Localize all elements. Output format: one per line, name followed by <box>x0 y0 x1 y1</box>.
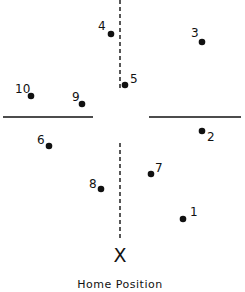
target-point-2: 2 <box>199 128 215 144</box>
home-position-marker: X <box>113 244 126 266</box>
target-point-5: 5 <box>122 72 138 88</box>
target-dot <box>148 171 155 178</box>
target-label: 3 <box>191 26 199 40</box>
target-diagram: 12345678910 X Home Position <box>0 0 245 292</box>
target-dot <box>98 186 105 193</box>
target-label: 6 <box>37 133 45 147</box>
target-point-3: 3 <box>191 26 205 45</box>
target-label: 4 <box>98 19 106 33</box>
target-label: 7 <box>155 161 163 175</box>
target-dot <box>46 143 53 150</box>
target-dot <box>180 216 187 223</box>
target-point-10: 10 <box>15 82 34 99</box>
target-point-9: 9 <box>72 90 85 107</box>
target-dot <box>79 101 86 108</box>
target-point-8: 8 <box>89 177 104 192</box>
target-point-7: 7 <box>148 161 163 177</box>
target-points: 12345678910 <box>15 19 215 222</box>
target-label: 10 <box>15 82 30 96</box>
target-label: 8 <box>89 177 97 191</box>
target-dot <box>108 31 115 38</box>
target-point-4: 4 <box>98 19 114 37</box>
target-label: 5 <box>130 72 138 86</box>
target-label: 1 <box>190 205 198 219</box>
target-label: 9 <box>72 90 80 104</box>
target-dot <box>122 82 129 89</box>
target-point-6: 6 <box>37 133 52 149</box>
target-dot <box>199 128 206 135</box>
home-position-caption: Home Position <box>77 278 162 291</box>
target-label: 2 <box>207 130 215 144</box>
target-dot <box>199 39 206 46</box>
target-point-1: 1 <box>180 205 198 222</box>
